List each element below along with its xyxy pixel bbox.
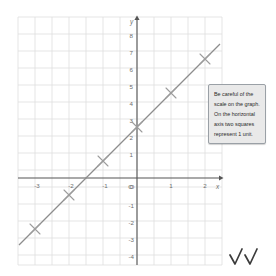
axis-name-labels: y x: [129, 18, 220, 190]
x-axis-tick-labels: -3 -2 -1 O 1 2: [34, 182, 207, 190]
callout-text-line: represent 1 unit.: [214, 129, 261, 139]
x-tick-label: 2: [203, 182, 207, 189]
y-axis-tick-labels: 8 7 6 5 4 3 2 1 O -1 -2 -3 -4: [128, 32, 134, 260]
x-tick-label: -3: [34, 182, 40, 189]
y-tick-label: -2: [128, 219, 134, 226]
callout-text-line: scale on the graph.: [214, 99, 261, 109]
x-tick-label: 1: [169, 182, 173, 189]
callout-text-line: On the horizontal: [214, 109, 261, 119]
graph-worksheet-page: -3 -2 -1 O 1 2 8 7 6 5 4 3 2 1 O -1 -2 -…: [0, 0, 276, 276]
x-tick-label: -1: [102, 182, 108, 189]
y-tick-label: 8: [130, 32, 134, 39]
y-tick-label: 6: [130, 66, 134, 73]
y-tick-label: 2: [130, 134, 134, 141]
y-tick-label: 5: [130, 83, 134, 90]
check-mark-icon: [245, 249, 257, 264]
y-tick-label: 1: [130, 151, 134, 158]
y-tick-label: -3: [128, 236, 134, 243]
axes: [18, 16, 224, 266]
check-mark-icon: [230, 249, 242, 264]
y-tick-label: 7: [130, 49, 134, 56]
check-marks-group: [228, 248, 272, 270]
x-axis-label: x: [215, 183, 220, 190]
grid-lines: [18, 17, 222, 265]
y-axis-label: y: [129, 18, 134, 26]
y-tick-label: O: [128, 183, 133, 190]
scale-warning-callout: Be careful of the scale on the graph. On…: [208, 84, 266, 144]
callout-text-line: Be careful of the: [214, 89, 261, 99]
x-tick-label: -2: [68, 182, 74, 189]
y-tick-label: 4: [130, 100, 134, 107]
x-axis-arrow: [219, 175, 224, 180]
y-tick-label: -1: [128, 202, 134, 209]
plotted-line-group: [19, 44, 220, 245]
y-tick-label: -4: [128, 253, 134, 260]
callout-text-line: axis two squares: [214, 119, 261, 129]
y-axis-arrow: [134, 16, 139, 21]
plotted-line-y-equals-2x-plus-3: [19, 44, 220, 245]
